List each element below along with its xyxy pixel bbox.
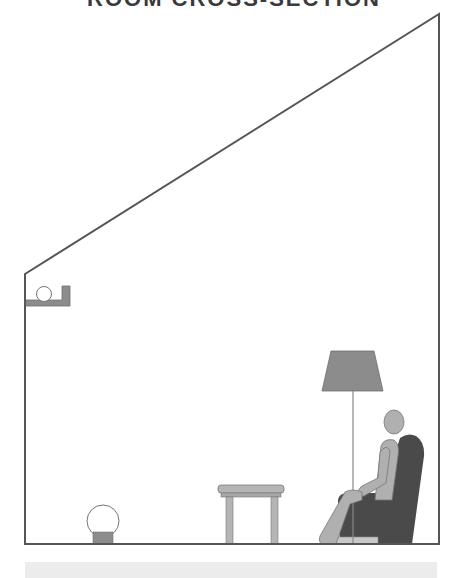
table-top [218, 485, 284, 493]
table-leg-right [271, 497, 278, 544]
shelf-lamp-bulb-icon [37, 287, 52, 302]
room-outline [25, 14, 439, 544]
wall-shelf-lamp [26, 286, 70, 306]
floor-lamp-shade [322, 351, 383, 391]
side-table [218, 485, 284, 544]
caption-bar [25, 562, 437, 578]
table-leg-left [226, 497, 233, 544]
floor-globe-lamp [87, 505, 119, 544]
person-head [384, 410, 404, 434]
floor-lamp-base [93, 532, 113, 544]
room-diagram [0, 0, 468, 578]
table-apron [221, 493, 281, 497]
